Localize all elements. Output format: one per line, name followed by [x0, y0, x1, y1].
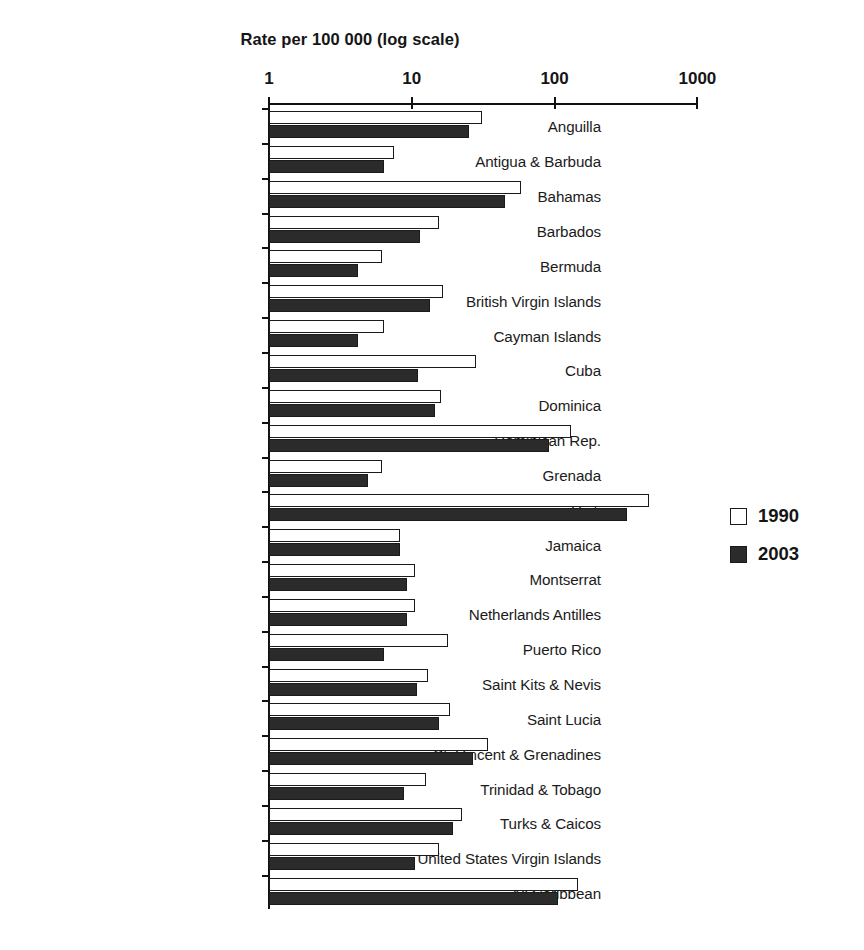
category-label: Jamaica — [545, 536, 601, 553]
bar-1990 — [269, 320, 384, 333]
legend-label: 2003 — [758, 543, 799, 565]
bar-1990 — [269, 599, 415, 612]
category-label: Bahamas — [538, 188, 601, 205]
y-axis-tick-mark — [262, 770, 269, 772]
bar-2003 — [269, 578, 407, 591]
x-axis-tick-mark — [554, 97, 556, 109]
bar-2003 — [269, 508, 627, 521]
bar-2003 — [269, 334, 358, 347]
y-axis-tick-mark — [262, 700, 269, 702]
category-label: Cayman Islands — [494, 327, 602, 344]
legend-item-1990: 1990 — [730, 505, 799, 527]
bar-1990 — [269, 181, 521, 194]
category-label: Bermuda — [540, 257, 601, 274]
y-axis-tick-mark — [262, 247, 269, 249]
bar-2003 — [269, 648, 384, 661]
bar-2003 — [269, 299, 430, 312]
y-axis-tick-mark — [262, 875, 269, 877]
chart-figure: Rate per 100 000 (log scale) 1101001000A… — [0, 0, 864, 950]
bar-2003 — [269, 543, 400, 556]
y-axis-tick-mark — [262, 666, 269, 668]
bar-1990 — [269, 216, 439, 229]
x-axis-tick-label: 10 — [402, 69, 421, 89]
bar-1990 — [269, 634, 448, 647]
y-axis-tick-mark — [262, 108, 269, 110]
category-label: United States Virgin Islands — [418, 850, 602, 867]
x-axis-line — [269, 103, 697, 105]
x-axis-tick-label: 100 — [540, 69, 568, 89]
bar-1990 — [269, 494, 649, 507]
category-label: Anguilla — [548, 118, 601, 135]
bar-2003 — [269, 230, 420, 243]
y-axis-tick-mark — [262, 805, 269, 807]
y-axis-tick-mark — [262, 457, 269, 459]
category-label: British Virgin Islands — [466, 292, 601, 309]
category-label: Grenada — [543, 466, 601, 483]
bar-2003 — [269, 613, 407, 626]
y-axis-tick-mark — [262, 735, 269, 737]
plot-area: 1101001000AnguillaAntigua & BarbudaBaham… — [0, 0, 864, 950]
y-axis-tick-mark — [262, 422, 269, 424]
category-label: Cuba — [565, 362, 601, 379]
y-axis-tick-mark — [262, 317, 269, 319]
x-axis-tick-label: 1000 — [678, 69, 716, 89]
bar-2003 — [269, 369, 418, 382]
category-label: Saint Lucia — [527, 710, 601, 727]
y-axis-tick-mark — [262, 526, 269, 528]
bar-2003 — [269, 404, 435, 417]
bar-1990 — [269, 703, 450, 716]
x-axis-tick-mark — [696, 97, 698, 109]
bar-2003 — [269, 195, 505, 208]
category-label: Saint Kits & Nevis — [482, 676, 601, 693]
bar-1990 — [269, 285, 443, 298]
category-label: Dominica — [538, 397, 601, 414]
category-label: Puerto Rico — [523, 641, 601, 658]
y-axis-tick-mark — [262, 143, 269, 145]
filled-square-icon — [730, 546, 747, 563]
y-axis-tick-mark — [262, 561, 269, 563]
bar-1990 — [269, 878, 578, 891]
bar-1990 — [269, 564, 415, 577]
y-axis-tick-mark — [262, 282, 269, 284]
bar-2003 — [269, 892, 558, 905]
bar-1990 — [269, 738, 488, 751]
y-axis-tick-mark — [262, 352, 269, 354]
bar-1990 — [269, 355, 476, 368]
y-axis-tick-mark — [262, 840, 269, 842]
bar-2003 — [269, 683, 417, 696]
bar-2003 — [269, 125, 469, 138]
bar-1990 — [269, 773, 426, 786]
category-label: Turks & Caicos — [500, 815, 601, 832]
y-axis-tick-mark — [262, 596, 269, 598]
bar-1990 — [269, 250, 382, 263]
y-axis-tick-mark — [262, 491, 269, 493]
bar-2003 — [269, 717, 439, 730]
category-label: Antigua & Barbuda — [475, 153, 601, 170]
bar-1990 — [269, 146, 394, 159]
x-axis-tick-label: 1 — [264, 69, 273, 89]
bar-1990 — [269, 460, 382, 473]
bar-2003 — [269, 857, 415, 870]
y-axis-tick-mark — [262, 178, 269, 180]
bar-1990 — [269, 425, 571, 438]
open-square-icon — [730, 508, 747, 525]
y-axis-tick-mark — [262, 631, 269, 633]
bar-2003 — [269, 439, 549, 452]
bar-2003 — [269, 752, 473, 765]
x-axis-tick-mark — [411, 97, 413, 109]
legend-label: 1990 — [758, 505, 799, 527]
bar-1990 — [269, 529, 400, 542]
bar-2003 — [269, 264, 358, 277]
bar-2003 — [269, 160, 384, 173]
y-axis-tick-mark — [262, 213, 269, 215]
legend-item-2003: 2003 — [730, 543, 799, 565]
bar-2003 — [269, 822, 453, 835]
bar-1990 — [269, 843, 439, 856]
category-label: Trinidad & Tobago — [480, 780, 601, 797]
bar-1990 — [269, 111, 482, 124]
y-axis-tick-mark — [262, 387, 269, 389]
category-label: Montserrat — [529, 571, 601, 588]
bar-2003 — [269, 474, 368, 487]
bar-1990 — [269, 390, 441, 403]
category-label: Barbados — [537, 222, 601, 239]
